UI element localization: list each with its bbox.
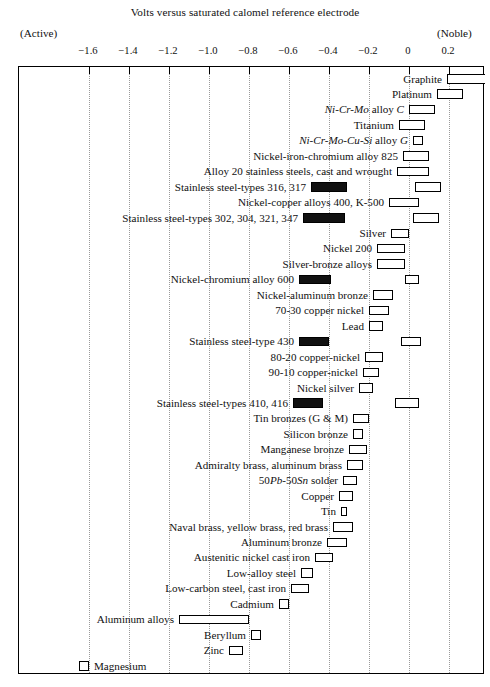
bar-potential-range — [369, 306, 389, 316]
bar-potential-range — [279, 599, 289, 609]
row-label: Silver-bronze alloys — [283, 257, 372, 272]
row-label: 70-30 copper nickel — [275, 303, 364, 318]
row-label: Ni-Cr-Mo-Cu-Si alloy G — [299, 133, 408, 148]
bar-potential-range — [349, 445, 367, 455]
chart-row: Stainless steel-types 302, 304, 321, 347 — [19, 211, 485, 226]
chart-row: Beryllum — [19, 628, 485, 643]
bar-potential-range — [347, 460, 363, 470]
bar-potential-range — [403, 151, 429, 161]
chart-row: Manganese bronze — [19, 442, 485, 457]
row-label: Ni-Cr-Mo alloy C — [325, 102, 404, 117]
x-tick-label-3: −1.0 — [188, 45, 228, 56]
chart-row: Silver-bronze alloys — [19, 257, 485, 272]
chart-row: Silicon bronze — [19, 427, 485, 442]
chart-row: Aluminum bronze — [19, 535, 485, 550]
chart-row: Tin bronzes (G & M) — [19, 411, 485, 426]
chart-row: Magnesium — [19, 659, 485, 674]
chart-caption: Volts versus saturated calomel reference… — [0, 6, 490, 18]
bar-potential-range — [251, 630, 261, 640]
chart-row: Nickel-copper alloys 400, K-500 — [19, 195, 485, 210]
bar-potential-range — [359, 383, 373, 393]
bar-potential-range — [409, 105, 435, 115]
bar-potential-range — [377, 259, 405, 269]
galvanic-series-chart: Volts versus saturated calomel reference… — [0, 0, 490, 687]
x-tick-label-5: −0.6 — [268, 45, 308, 56]
chart-row: Lead — [19, 319, 485, 334]
row-label: Magnesium — [94, 659, 146, 674]
bar-potential-range — [397, 167, 429, 177]
chart-row: Nickel-iron-chromium alloy 825 — [19, 149, 485, 164]
chart-row: Nickel 200 — [19, 241, 485, 256]
chart-row: Alloy 20 stainless steels, cast and wrou… — [19, 164, 485, 179]
bar-potential-range — [405, 275, 419, 285]
bar-potential-range — [365, 352, 383, 362]
chart-row: Cadmium — [19, 597, 485, 612]
x-tick-label-9: 0.2 — [428, 45, 468, 56]
bar-potential-range — [353, 414, 369, 424]
bar-active-range — [299, 275, 331, 285]
chart-row: Low-alloy steel — [19, 566, 485, 581]
bar-potential-range — [391, 229, 409, 239]
row-label: Aluminum bronze — [241, 535, 322, 550]
row-label: Platinum — [392, 87, 432, 102]
row-label: Nickel-chromium alloy 600 — [171, 272, 294, 287]
chart-row: Titanium — [19, 118, 485, 133]
chart-row: 50Pb-50Sn solder — [19, 473, 485, 488]
row-label: Titanium — [354, 118, 394, 133]
chart-row: Stainless steel-type 430 — [19, 334, 485, 349]
bar-potential-range — [399, 120, 425, 130]
row-label: Stainless steel-type 430 — [189, 334, 294, 349]
bar-potential-range — [395, 398, 419, 408]
bar-active-range — [293, 398, 323, 408]
x-tick-label-6: −0.4 — [308, 45, 348, 56]
row-label: Nickel-aluminum bronze — [257, 288, 368, 303]
plot-area: GraphitePlatinumNi-Cr-Mo alloy CTitanium… — [18, 66, 484, 674]
chart-row: Low-carbon steel, cast iron — [19, 581, 485, 596]
row-label: Silicon bronze — [284, 427, 348, 442]
bar-potential-range — [413, 136, 423, 146]
bar-potential-range — [363, 368, 379, 378]
chart-row: Nickel-aluminum bronze — [19, 288, 485, 303]
chart-rows: GraphitePlatinumNi-Cr-Mo alloy CTitanium… — [19, 67, 483, 673]
bar-potential-range — [315, 553, 333, 563]
row-label: Copper — [301, 489, 334, 504]
x-tick-label-2: −1.2 — [148, 45, 188, 56]
row-label: Graphite — [403, 72, 442, 87]
bar-potential-range — [377, 244, 405, 254]
chart-row: Tin — [19, 504, 485, 519]
row-label: Tin bronzes (G & M) — [253, 411, 348, 426]
bar-potential-range — [339, 491, 353, 501]
x-tick-label-4: −0.8 — [228, 45, 268, 56]
row-label: Stainless steel-types 410, 416 — [157, 396, 288, 411]
bar-potential-range — [79, 661, 89, 671]
bar-potential-range — [229, 646, 243, 656]
bar-potential-range — [353, 429, 363, 439]
row-label: Aluminum alloys — [97, 612, 174, 627]
bar-potential-range — [333, 522, 353, 532]
x-tick-label-8: 0 — [388, 45, 428, 56]
bar-potential-range — [413, 213, 439, 223]
row-label: Naval brass, yellow brass, red brass — [169, 520, 328, 535]
row-label: Manganese bronze — [261, 442, 344, 457]
chart-row: Nickel-chromium alloy 600 — [19, 272, 485, 287]
bar-potential-range — [341, 507, 347, 517]
row-label: Lead — [342, 319, 364, 334]
row-label: Nickel-iron-chromium alloy 825 — [253, 149, 398, 164]
bar-potential-range — [447, 74, 485, 84]
row-label: Silver — [360, 226, 387, 241]
bar-potential-range — [343, 476, 357, 486]
row-label: 90-10 copper-nickel — [269, 365, 358, 380]
active-end-label: (Active) — [20, 27, 57, 39]
chart-row: Ni-Cr-Mo alloy C — [19, 102, 485, 117]
chart-row: 90-10 copper-nickel — [19, 365, 485, 380]
row-label: Zinc — [204, 643, 224, 658]
row-label: Nickel-copper alloys 400, K-500 — [238, 195, 384, 210]
row-label: 80-20 copper-nickel — [271, 350, 360, 365]
row-label: Admiralty brass, aluminum brass — [195, 458, 342, 473]
bar-potential-range — [389, 198, 419, 208]
row-label: Nickel 200 — [323, 241, 372, 256]
bar-potential-range — [327, 538, 347, 548]
noble-end-label: (Noble) — [437, 27, 472, 39]
chart-row: Austenitic nickel cast iron — [19, 550, 485, 565]
row-label: Tin — [321, 504, 336, 519]
